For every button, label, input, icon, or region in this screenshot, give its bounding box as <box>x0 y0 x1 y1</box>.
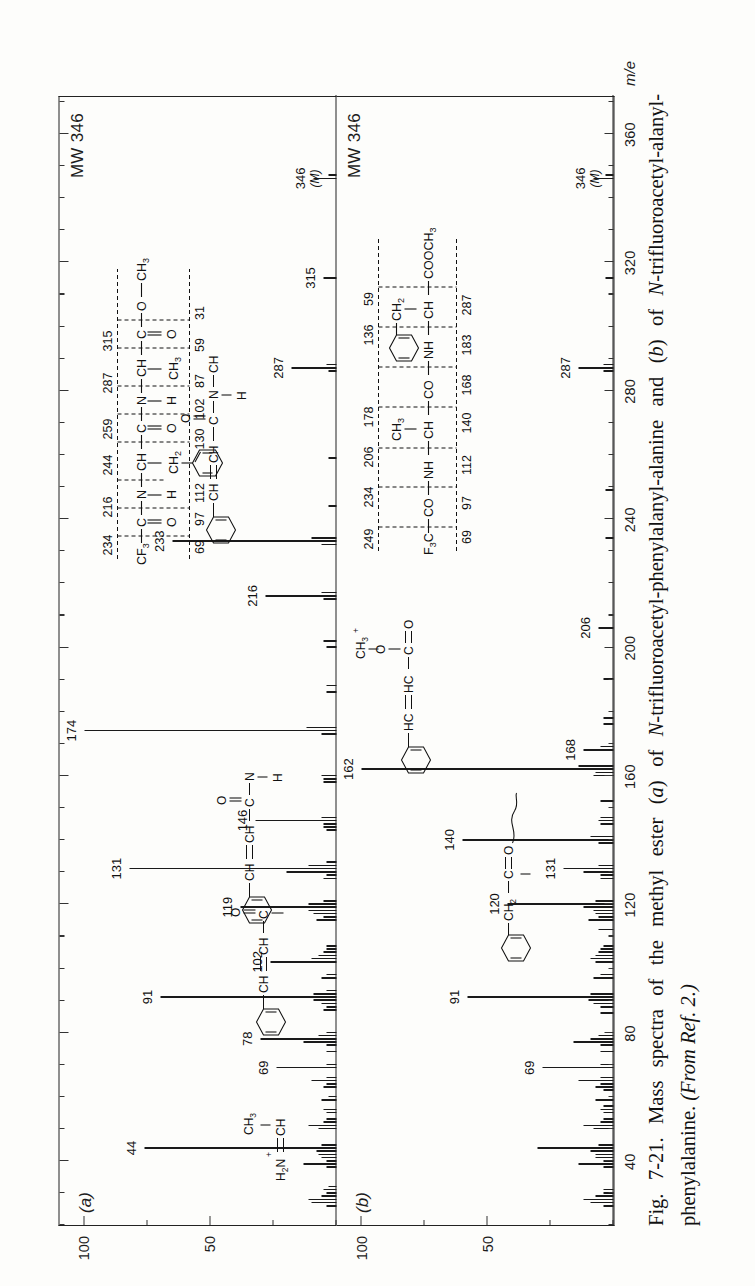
spectrum-peak <box>323 598 336 600</box>
peak-label-mz: 140 <box>441 829 456 851</box>
x-axis-minor-tick <box>608 454 613 455</box>
svg-text:CH: CH <box>206 484 220 501</box>
peak-label: 315 <box>302 267 317 289</box>
spectrum-peak <box>593 1003 613 1005</box>
spectrum-peak <box>323 1009 336 1011</box>
figure-number: Fig. 7-21. <box>644 1137 666 1226</box>
spectrum-peak <box>318 1035 336 1037</box>
spectrum-peak <box>542 1067 613 1069</box>
spectrum-peak <box>583 1199 613 1201</box>
spectrum-peak <box>598 842 613 844</box>
y-axis-major-tick <box>486 1216 487 1225</box>
peak-label-molecular-ion: (M) <box>587 168 601 190</box>
svg-text:CH2: CH2 <box>389 298 405 321</box>
peak-label: 168 <box>562 739 577 761</box>
svg-text:31: 31 <box>192 306 206 320</box>
spectrum-panel-a: 44697891102119131146174216233287315346(M… <box>58 96 336 1226</box>
spectrum-peak <box>578 367 613 369</box>
spectrum-peak <box>600 1051 613 1053</box>
structure-fragment-131: .et{font:12px "Liberation Sans",sans-ser… <box>227 897 299 1047</box>
spectrum-peak <box>323 900 336 902</box>
spectrum-peak <box>323 640 336 642</box>
y-axis-minor-tick <box>612 1220 613 1225</box>
x-axis-tick-label: 80 <box>621 1025 637 1042</box>
y-axis-minor-tick <box>423 1220 424 1225</box>
figure-page: 44697891102119131146174216233287315346(M… <box>0 0 755 1286</box>
spectrum-peak <box>311 537 336 539</box>
x-axis-minor-tick <box>608 582 613 583</box>
peak-label-mz: 346 <box>292 168 307 190</box>
x-axis-minor-tick <box>59 1000 64 1001</box>
spectrum-peak <box>308 1199 336 1201</box>
x-axis-major-tick <box>604 903 613 904</box>
svg-text:N: N <box>134 490 148 499</box>
svg-text:CF3: CF3 <box>134 543 150 565</box>
mw-label-b: MW 346 <box>344 113 364 178</box>
x-axis-minor-tick <box>608 871 613 872</box>
x-axis-minor-tick <box>59 358 64 359</box>
svg-text:H2N: H2N <box>273 1159 289 1181</box>
x-axis-minor-tick <box>608 1192 613 1193</box>
spectrum-peak <box>598 627 613 629</box>
x-axis-minor-tick <box>59 197 64 198</box>
spectrum-peak <box>323 1121 336 1123</box>
svg-text:69: 69 <box>459 530 473 544</box>
y-axis-major-tick <box>83 1216 84 1225</box>
x-axis-tick-label: 40 <box>621 1154 637 1171</box>
svg-text:234: 234 <box>361 487 375 508</box>
spectrum-peak <box>598 820 613 822</box>
spectrum-peak <box>316 919 336 921</box>
svg-text:CH: CH <box>421 301 435 319</box>
x-axis-minor-tick <box>59 1128 64 1129</box>
spectrum-peak <box>306 727 336 729</box>
svg-text:287: 287 <box>100 373 114 394</box>
spectrum-peak <box>313 913 336 915</box>
x-axis-minor-tick <box>59 454 64 455</box>
peak-label: 287 <box>557 357 572 379</box>
svg-text:NH: NH <box>421 461 435 479</box>
spectrum-peak <box>583 906 613 908</box>
spectrum-peak <box>323 878 336 880</box>
peak-label-mz: 287 <box>557 357 572 379</box>
x-axis-minor-tick <box>608 165 613 166</box>
peak-label-molecular-ion: (M) <box>307 168 321 190</box>
spectrum-peak <box>598 865 613 867</box>
spectrum-peak <box>598 951 613 953</box>
svg-text:H: H <box>234 391 248 400</box>
spectrum-peak <box>321 1099 336 1101</box>
y-axis-major-tick <box>209 1216 210 1225</box>
svg-text:O: O <box>164 329 178 339</box>
svg-text:CH: CH <box>256 976 270 993</box>
spectrum-peak <box>321 817 336 819</box>
x-axis-tick-label: 160 <box>621 764 637 789</box>
x-axis-minor-tick <box>608 486 613 487</box>
svg-text:216: 216 <box>100 497 114 518</box>
spectrum-peak <box>84 730 336 732</box>
peak-label: 69 <box>521 1060 536 1074</box>
x-axis-minor-tick <box>59 614 64 615</box>
x-axis-major-tick <box>604 133 613 134</box>
spectrum-peak <box>323 778 336 780</box>
x-axis-minor-tick <box>608 743 613 744</box>
x-axis-minor-tick <box>608 711 613 712</box>
spectrum-peak <box>323 1189 336 1191</box>
spectrum-peak <box>308 903 336 905</box>
x-axis-minor-tick <box>59 165 64 166</box>
svg-text:CH: CH <box>421 421 435 439</box>
spectrum-peak <box>578 1080 613 1082</box>
svg-text:244: 244 <box>100 455 114 476</box>
svg-text:259: 259 <box>100 419 114 440</box>
svg-text:59: 59 <box>361 292 375 306</box>
svg-text:97: 97 <box>459 496 473 510</box>
spectrum-peak <box>595 1086 613 1088</box>
spectrum-peak <box>595 913 613 915</box>
svg-text:CH2: CH2 <box>501 899 517 921</box>
spectrum-peak <box>321 1157 336 1159</box>
svg-text:O: O <box>501 846 515 855</box>
peak-label-mz: 131 <box>108 858 123 880</box>
x-axis-minor-tick <box>59 968 64 969</box>
spectrum-peak <box>321 733 336 735</box>
figure-landscape-canvas: 44697891102119131146174216233287315346(M… <box>0 0 755 1286</box>
spectrum-peak <box>598 929 613 931</box>
x-axis-minor-tick <box>608 326 613 327</box>
